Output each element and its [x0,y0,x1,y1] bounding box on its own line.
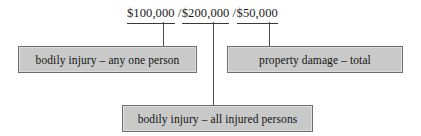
node-box-property-damage: property damage – total [227,46,403,73]
node-label-property-damage: property damage – total [259,54,371,66]
node-box-bodily-injury-all: bodily injury – all injured persons [122,105,313,132]
node-label-bodily-injury-all: bodily injury – all injured persons [138,113,298,125]
limit-amount-property-damage: $50,000 [237,6,278,24]
node-label-bodily-injury-person: bodily injury – any one person [36,54,180,66]
connector-line-bodily-injury-person [163,22,164,46]
limit-amount-bodily-injury-person: $100,000 [127,6,175,24]
node-box-bodily-injury-person: bodily injury – any one person [18,46,197,73]
coverage-limits-label-row: $100,000 / $200,000 / $50,000 [127,6,278,22]
limit-separator-2: / [229,6,236,21]
connector-line-bodily-injury-all [213,22,214,105]
connector-line-property-damage [269,22,270,46]
limit-separator-1: / [175,6,182,21]
limit-amount-bodily-injury-all: $200,000 [182,6,230,24]
coverage-limits-diagram: $100,000 / $200,000 / $50,000 bodily inj… [0,0,421,136]
